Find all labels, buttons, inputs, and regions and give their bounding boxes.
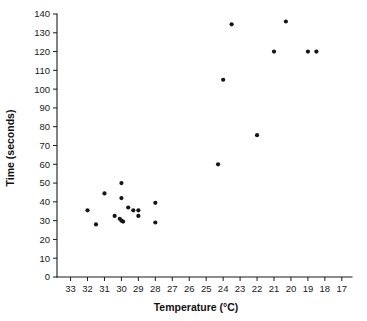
data-point	[113, 214, 117, 218]
y-tick-label: 110	[35, 65, 50, 76]
x-tick-label: 27	[167, 283, 178, 294]
x-tick-label: 19	[303, 283, 314, 294]
y-tick-label: 140	[34, 8, 50, 19]
y-tick-label: 80	[39, 121, 50, 132]
data-point	[131, 208, 135, 212]
data-point	[121, 219, 125, 223]
data-point	[126, 205, 130, 209]
x-tick-label: 21	[269, 283, 280, 294]
data-points-layer	[85, 19, 318, 226]
y-tick-label: 50	[39, 177, 50, 188]
y-tick-label: 30	[39, 215, 50, 226]
data-point	[136, 214, 140, 218]
data-point	[284, 19, 288, 23]
data-point	[221, 78, 225, 82]
x-tick-label: 17	[337, 283, 348, 294]
data-point	[119, 196, 123, 200]
data-point	[272, 49, 276, 53]
y-tick-label: 60	[39, 159, 50, 170]
x-tick-label: 23	[235, 283, 246, 294]
x-tick-label: 24	[218, 283, 229, 294]
y-tick-label: 40	[39, 196, 50, 207]
y-tick-label: 10	[39, 253, 50, 264]
x-tick-label: 31	[99, 283, 110, 294]
x-tick-label: 32	[82, 283, 93, 294]
data-point	[314, 49, 318, 53]
data-point	[102, 191, 106, 195]
y-tick-label: 90	[39, 102, 50, 113]
x-tick-label: 30	[116, 283, 127, 294]
scatter-plot-svg: 0102030405060708090100110120130140 33323…	[0, 0, 367, 321]
data-point	[153, 220, 157, 224]
data-point	[119, 181, 123, 185]
y-tick-label: 100	[34, 84, 50, 95]
x-tick-label: 20	[286, 283, 297, 294]
data-point	[94, 222, 98, 226]
x-tick-label: 18	[320, 283, 331, 294]
data-point	[230, 22, 234, 26]
x-tick-label: 28	[150, 283, 161, 294]
x-axis-title: Temperature (°C)	[154, 301, 239, 313]
y-tick-label: 120	[34, 46, 50, 57]
x-tick-label: 33	[65, 283, 76, 294]
y-tick-label: 130	[34, 27, 50, 38]
scatter-chart-figure: 0102030405060708090100110120130140 33323…	[0, 0, 367, 321]
x-tick-label: 22	[252, 283, 263, 294]
y-tick-label: 20	[39, 234, 50, 245]
data-point	[255, 133, 259, 137]
y-tick-label: 70	[39, 140, 50, 151]
data-point	[216, 162, 220, 166]
x-axis: 3332313029282726252423222120191817	[57, 277, 352, 294]
y-tick-label: 0	[45, 271, 50, 282]
y-axis-title: Time (seconds)	[4, 110, 16, 187]
data-point	[136, 208, 140, 212]
x-tick-label: 26	[184, 283, 195, 294]
x-tick-label: 25	[201, 283, 212, 294]
data-point	[153, 201, 157, 205]
y-axis: 0102030405060708090100110120130140	[34, 8, 57, 282]
data-point	[85, 208, 89, 212]
x-tick-label: 29	[133, 283, 144, 294]
data-point	[306, 49, 310, 53]
